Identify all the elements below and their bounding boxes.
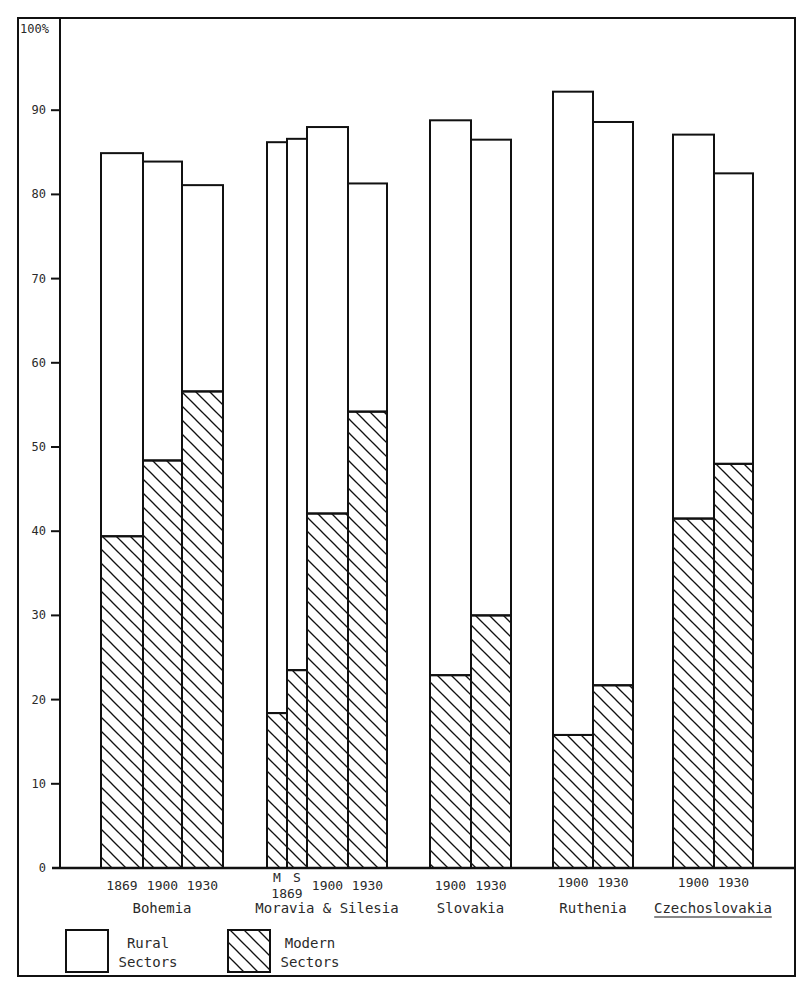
bar-rural-segment xyxy=(287,139,307,670)
legend-item-rural: RuralSectors xyxy=(66,930,178,972)
y-tick-label: 10 xyxy=(32,777,46,791)
y-tick-label: 0 xyxy=(39,861,46,875)
bar-rural-segment xyxy=(101,153,143,536)
bar-rural-segment xyxy=(553,92,593,735)
bar-modern-segment xyxy=(673,519,714,868)
bar-rural-segment xyxy=(593,122,633,685)
bar-modern-segment xyxy=(593,685,633,868)
bar-modern-segment xyxy=(471,615,511,868)
bar-rural-segment xyxy=(267,142,287,713)
bar-label: 1930 xyxy=(475,878,506,893)
bar-label: 1930 xyxy=(187,878,218,893)
group-label: Slovakia xyxy=(437,900,504,916)
bar-modern-segment xyxy=(182,391,223,868)
bar-group-slovakia xyxy=(430,120,511,868)
legend-swatch-modern xyxy=(228,930,270,972)
bar-label: 1930 xyxy=(352,878,383,893)
bar-rural-segment xyxy=(673,135,714,519)
bar-group-moravia-silesia xyxy=(267,127,387,868)
legend-label: Rural xyxy=(127,935,169,951)
y-tick-label: 50 xyxy=(32,440,46,454)
group-label: Bohemia xyxy=(132,900,191,916)
bar-rural-segment xyxy=(714,173,753,463)
y-tick-label: 60 xyxy=(32,356,46,370)
legend: RuralSectorsModernSectors xyxy=(66,930,340,972)
y-axis: 0102030405060708090100% xyxy=(20,18,60,875)
y-tick-label: 30 xyxy=(32,608,46,622)
bar-group-bohemia xyxy=(101,153,223,868)
bar-modern-segment xyxy=(553,735,593,868)
bar-rural-segment xyxy=(430,120,471,675)
y-tick-label: 100% xyxy=(20,22,50,36)
bar-rural-segment xyxy=(471,140,511,616)
y-tick-label: 20 xyxy=(32,693,46,707)
bar-label: 1869 xyxy=(106,878,137,893)
y-tick-label: 90 xyxy=(32,103,46,117)
bar-modern-segment xyxy=(714,464,753,868)
bar-modern-segment xyxy=(287,670,307,868)
bar-label: 1900 xyxy=(678,875,709,890)
bar-label: 1900 xyxy=(435,878,466,893)
bar-modern-segment xyxy=(101,536,143,868)
bar-modern-segment xyxy=(267,713,287,868)
legend-label: Modern xyxy=(285,935,336,951)
bar-modern-segment xyxy=(348,412,387,868)
y-tick-label: 40 xyxy=(32,524,46,538)
legend-item-modern: ModernSectors xyxy=(228,930,340,972)
bar-rural-segment xyxy=(348,183,387,411)
bar-label: 1900 xyxy=(147,878,178,893)
bar-rural-segment xyxy=(182,185,223,391)
chart: 0102030405060708090100% 186919001930Bohe… xyxy=(0,0,811,994)
bar-label: 1900 xyxy=(312,878,343,893)
bar-modern-segment xyxy=(307,514,348,868)
bar-sublabel: 1869 xyxy=(271,886,302,901)
bar-label: M xyxy=(273,870,281,885)
bar-label: S xyxy=(293,870,301,885)
bar-modern-segment xyxy=(143,460,182,868)
bar-rural-segment xyxy=(307,127,348,513)
group-label: Ruthenia xyxy=(559,900,626,916)
bar-label: 1930 xyxy=(597,875,628,890)
bar-group-ruthenia xyxy=(553,92,633,868)
bar-rural-segment xyxy=(143,162,182,461)
group-label: Moravia & Silesia xyxy=(255,900,398,916)
group-label: Czechoslovakia xyxy=(654,900,772,916)
y-tick-label: 70 xyxy=(32,272,46,286)
bars xyxy=(101,92,753,868)
bar-label: 1900 xyxy=(557,875,588,890)
bar-modern-segment xyxy=(430,675,471,868)
y-tick-label: 80 xyxy=(32,187,46,201)
legend-swatch-rural xyxy=(66,930,108,972)
bar-group-czechoslovakia xyxy=(673,135,753,868)
legend-label: Sectors xyxy=(280,954,339,970)
legend-label: Sectors xyxy=(118,954,177,970)
x-axis-labels: 186919001930BohemiaMS190019301869Moravia… xyxy=(106,870,772,917)
bar-label: 1930 xyxy=(718,875,749,890)
